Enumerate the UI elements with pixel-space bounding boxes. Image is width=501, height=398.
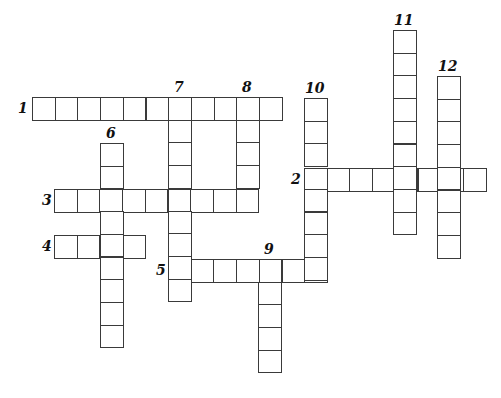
grid-cell-12-down-2[interactable] (437, 99, 461, 123)
grid-cell-2-across-2[interactable] (327, 168, 351, 192)
grid-cell-6-down-1[interactable] (100, 143, 124, 167)
grid-cell-2-across-8[interactable] (463, 168, 487, 192)
grid-cell-1-across-6[interactable] (146, 97, 170, 121)
grid-cell-12-down-6[interactable] (437, 190, 461, 214)
grid-cell-11-down-2[interactable] (393, 53, 417, 77)
grid-cell-6-down-8[interactable] (100, 302, 124, 326)
grid-cell-5-across-3[interactable] (213, 259, 237, 283)
grid-cell-5-across-6[interactable] (282, 259, 306, 283)
grid-cell-5-across-4[interactable] (236, 259, 260, 283)
grid-cell-6-down-6[interactable] (100, 257, 124, 281)
grid-cell-8-down-4[interactable] (236, 165, 260, 189)
grid-cell-10-down-5[interactable] (304, 189, 328, 213)
grid-cell-1-across-8[interactable] (191, 97, 215, 121)
grid-cell-8-down-3[interactable] (236, 142, 260, 166)
grid-cell-1-across-4[interactable] (100, 97, 124, 121)
grid-cell-1-across-2[interactable] (55, 97, 79, 121)
clue-number-6: 6 (106, 126, 116, 140)
grid-cell-1-across-11[interactable] (259, 97, 283, 121)
clue-number-3: 3 (42, 193, 52, 207)
grid-cell-3-across-4[interactable] (122, 189, 146, 213)
grid-cell-9-down-3[interactable] (258, 304, 282, 328)
grid-cell-7-down-6[interactable] (168, 211, 192, 235)
grid-cell-11-down-1[interactable] (393, 30, 417, 54)
grid-cell-10-down-1[interactable] (304, 98, 328, 122)
grid-cell-7-down-4[interactable] (168, 165, 192, 189)
grid-cell-11-down-3[interactable] (393, 75, 417, 99)
clue-number-11: 11 (394, 13, 413, 27)
grid-cell-6-down-2[interactable] (100, 166, 124, 190)
clue-number-7: 7 (174, 80, 184, 94)
grid-cell-3-across-8[interactable] (213, 189, 237, 213)
grid-cell-1-across-3[interactable] (77, 97, 101, 121)
grid-cell-7-down-9[interactable] (168, 279, 192, 303)
clue-number-9: 9 (264, 242, 274, 256)
crossword-grid: 123456789101112 (0, 0, 501, 398)
grid-cell-7-down-8[interactable] (168, 256, 192, 280)
grid-cell-9-down-2[interactable] (258, 282, 282, 306)
grid-cell-1-across-9[interactable] (214, 97, 238, 121)
clue-number-1: 1 (18, 101, 28, 115)
grid-cell-3-across-5[interactable] (145, 189, 169, 213)
grid-cell-10-down-2[interactable] (304, 121, 328, 145)
grid-cell-12-down-5[interactable] (437, 167, 461, 191)
grid-cell-1-across-1[interactable] (32, 97, 56, 121)
grid-cell-11-down-8[interactable] (393, 189, 417, 213)
grid-cell-9-down-5[interactable] (258, 350, 282, 374)
clue-number-2: 2 (291, 172, 301, 186)
grid-cell-6-down-4[interactable] (100, 211, 124, 235)
grid-cell-12-down-1[interactable] (437, 76, 461, 100)
grid-cell-8-down-2[interactable] (236, 120, 260, 144)
grid-cell-12-down-4[interactable] (437, 144, 461, 168)
grid-cell-3-across-6[interactable] (168, 189, 192, 213)
grid-cell-5-across-2[interactable] (191, 259, 215, 283)
clue-number-10: 10 (305, 81, 324, 95)
grid-cell-1-across-5[interactable] (123, 97, 147, 121)
grid-cell-3-across-1[interactable] (54, 189, 78, 213)
clue-number-12: 12 (438, 59, 457, 73)
grid-cell-2-across-3[interactable] (349, 168, 373, 192)
grid-cell-4-across-2[interactable] (77, 235, 101, 259)
grid-cell-12-down-7[interactable] (437, 212, 461, 236)
grid-cell-11-down-5[interactable] (393, 121, 417, 145)
grid-cell-1-across-7[interactable] (168, 97, 192, 121)
grid-cell-1-across-10[interactable] (236, 97, 260, 121)
grid-cell-3-across-3[interactable] (99, 189, 123, 213)
grid-cell-7-down-2[interactable] (168, 120, 192, 144)
grid-cell-10-down-3[interactable] (304, 143, 328, 167)
clue-number-4: 4 (42, 239, 52, 253)
grid-cell-6-down-5[interactable] (100, 234, 124, 258)
grid-cell-10-down-8[interactable] (304, 257, 328, 281)
grid-cell-12-down-8[interactable] (437, 235, 461, 259)
grid-cell-12-down-3[interactable] (437, 121, 461, 145)
grid-cell-11-down-6[interactable] (393, 144, 417, 168)
grid-cell-3-across-9[interactable] (236, 189, 260, 213)
grid-cell-10-down-7[interactable] (304, 234, 328, 258)
grid-cell-7-down-3[interactable] (168, 142, 192, 166)
grid-cell-11-down-7[interactable] (393, 166, 417, 190)
grid-cell-3-across-2[interactable] (77, 189, 101, 213)
clue-number-8: 8 (242, 80, 252, 94)
grid-cell-7-down-7[interactable] (168, 233, 192, 257)
clue-number-5: 5 (156, 263, 166, 277)
grid-cell-10-down-6[interactable] (304, 212, 328, 236)
grid-cell-6-down-9[interactable] (100, 325, 124, 349)
grid-cell-4-across-4[interactable] (122, 235, 146, 259)
grid-cell-6-down-7[interactable] (100, 279, 124, 303)
grid-cell-9-down-4[interactable] (258, 327, 282, 351)
grid-cell-11-down-4[interactable] (393, 98, 417, 122)
grid-cell-3-across-7[interactable] (190, 189, 214, 213)
grid-cell-4-across-1[interactable] (54, 235, 78, 259)
grid-cell-11-down-9[interactable] (393, 212, 417, 236)
grid-cell-5-across-5[interactable] (259, 259, 283, 283)
